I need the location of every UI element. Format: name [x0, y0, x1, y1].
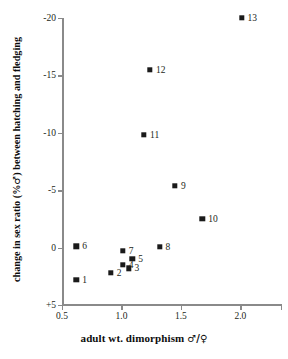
- y-tick-label: +5: [30, 300, 56, 310]
- data-point-label: 5: [138, 254, 143, 264]
- x-tick-mark: [121, 305, 122, 310]
- data-point-marker[interactable]: [239, 15, 244, 20]
- x-axis-title-text: adult wt. dimorphism: [81, 332, 185, 344]
- y-tick-mark: [58, 18, 63, 19]
- data-point-marker[interactable]: [147, 67, 152, 72]
- data-point-marker[interactable]: [108, 270, 113, 275]
- data-point-marker[interactable]: [74, 277, 79, 282]
- data-point-marker[interactable]: [129, 256, 134, 261]
- y-tick-label: -5: [30, 185, 56, 195]
- y-tick-label: 0: [30, 243, 56, 253]
- y-axis-line: [62, 18, 64, 305]
- male-female-symbol-x: ♂/♀: [187, 333, 207, 344]
- data-point-label: 9: [181, 181, 186, 191]
- data-point-marker[interactable]: [141, 132, 146, 137]
- x-axis-end-tick: [281, 305, 282, 310]
- data-point-label: 13: [248, 13, 258, 23]
- data-point-label: 1: [82, 275, 87, 285]
- plot-area: -20-15-10-50+5 0.51.01.52.0 123456789101…: [62, 18, 282, 305]
- data-point-label: 10: [208, 214, 218, 224]
- x-tick-label: 1.0: [104, 311, 138, 321]
- y-tick-mark: [58, 133, 63, 134]
- x-axis-line: [62, 304, 282, 306]
- y-tick-mark: [58, 75, 63, 76]
- data-point-marker[interactable]: [120, 248, 125, 253]
- data-point-marker[interactable]: [172, 183, 177, 188]
- y-axis-title-text-1: change in sex ratio (%: [11, 185, 22, 282]
- x-axis-title: adult wt. dimorphism ♂/♀: [0, 332, 288, 344]
- y-axis-title-text-2: ) between hatching and fledging: [11, 37, 22, 176]
- data-point-label: 12: [156, 65, 166, 75]
- data-point-label: 7: [129, 246, 134, 256]
- x-tick-mark: [240, 305, 241, 310]
- data-point-label: 2: [117, 268, 122, 278]
- data-point-marker[interactable]: [157, 244, 162, 249]
- data-point-marker[interactable]: [200, 216, 205, 221]
- data-point-marker[interactable]: [120, 262, 125, 267]
- y-tick-label: -10: [30, 128, 56, 138]
- y-tick-mark: [58, 190, 63, 191]
- x-tick-label: 1.5: [164, 311, 198, 321]
- y-tick-label: -20: [30, 13, 56, 23]
- data-point-label: 6: [82, 241, 87, 251]
- y-tick-mark: [58, 248, 63, 249]
- male-symbol-y: ♂: [11, 176, 22, 185]
- x-tick-mark: [62, 305, 63, 310]
- data-point-label: 3: [135, 263, 140, 273]
- data-point-marker[interactable]: [74, 244, 79, 249]
- data-point-label: 11: [150, 130, 159, 140]
- x-tick-mark: [181, 305, 182, 310]
- y-tick-label: -15: [30, 70, 56, 80]
- x-tick-label: 2.0: [223, 311, 257, 321]
- y-axis-title: change in sex ratio (%♂) between hatchin…: [11, 10, 22, 310]
- x-tick-label: 0.5: [45, 311, 79, 321]
- scatter-plot-figure: -20-15-10-50+5 0.51.01.52.0 123456789101…: [0, 0, 288, 359]
- data-point-label: 8: [166, 242, 171, 252]
